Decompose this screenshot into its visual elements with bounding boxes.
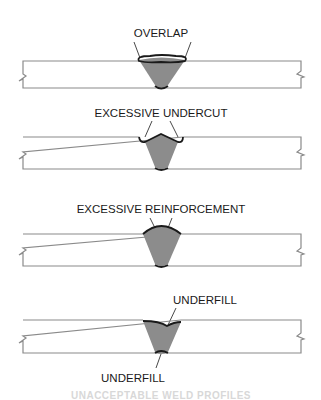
leader-line [156, 354, 161, 368]
leader-line [170, 121, 178, 137]
panel-excessive-reinforcement: EXCESSIVE REINFORCEMENT [19, 203, 304, 267]
weld-bead [143, 226, 181, 266]
leader-line [145, 121, 152, 137]
label-overlap: OVERLAP [134, 27, 189, 39]
panel-excessive-undercut: EXCESSIVE UNDERCUT [19, 107, 304, 170]
leader-line [134, 42, 140, 58]
label-excessive-reinforcement: EXCESSIVE REINFORCEMENT [77, 203, 246, 215]
panel-overlap: OVERLAP [19, 27, 304, 89]
panel-underfill: UNDERFILL UNDERFILL [19, 294, 304, 384]
weld-bead [143, 321, 181, 354]
label-underfill-bottom: UNDERFILL [101, 372, 166, 384]
figure-caption: UNACCEPTABLE WELD PROFILES [71, 390, 251, 400]
label-excessive-undercut: EXCESSIVE UNDERCUT [95, 107, 228, 119]
weld-profiles-diagram: OVERLAP EXCESSIVE UNDERCUT EXCESSIVE REI… [0, 0, 321, 400]
leader-line [185, 42, 191, 58]
label-underfill-top: UNDERFILL [173, 294, 238, 306]
